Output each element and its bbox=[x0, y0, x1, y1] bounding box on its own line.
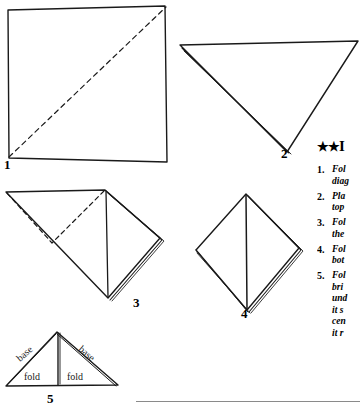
figure-5-label-fold-right: fold bbox=[67, 371, 83, 382]
instructions-heading: ★★I bbox=[317, 138, 360, 155]
instruction-step-2: 2. Pla top bbox=[317, 191, 360, 214]
instructions-panel: ★★I 1. Fol diag 2. Pla top 3. Fol bbox=[317, 138, 360, 396]
instruction-step-2-text: Pla top bbox=[332, 191, 360, 214]
figure-3-number: 3 bbox=[133, 296, 140, 309]
instruction-step-4-text: Fol bot bbox=[332, 244, 360, 267]
instruction-step-3: 3. Fol the bbox=[317, 217, 360, 240]
instruction-step-1-number: 1. bbox=[317, 164, 325, 176]
difficulty-stars-icon: ★★ bbox=[317, 139, 339, 154]
figure-4-center-crease bbox=[246, 195, 247, 309]
figure-3-dashed-fold-line bbox=[6, 191, 104, 243]
bottom-divider bbox=[136, 401, 360, 402]
figure-3-center-crease bbox=[106, 191, 108, 297]
figure-4-diamond bbox=[196, 194, 303, 313]
figure-3-diamond bbox=[6, 190, 164, 301]
figure-5-label-fold-left: fold bbox=[24, 371, 40, 382]
instruction-step-1: 1. Fol diag bbox=[317, 164, 360, 187]
instruction-step-2-number: 2. bbox=[317, 191, 325, 203]
figure-5-annotations: base base fold fold bbox=[14, 343, 98, 382]
instructions-heading-text: I bbox=[339, 138, 345, 154]
figure-1-square bbox=[8, 6, 167, 162]
instruction-step-3-number: 3. bbox=[317, 217, 325, 229]
figure-5-number: 5 bbox=[47, 392, 54, 405]
figure-1-number: 1 bbox=[4, 158, 11, 171]
instruction-step-1-text: Fol diag bbox=[332, 164, 360, 187]
figure-2-number: 2 bbox=[281, 147, 288, 160]
instruction-step-5-text: Fol bri und it s cen it r bbox=[332, 270, 360, 339]
figure-1-dashed-fold-line bbox=[9, 7, 166, 157]
instruction-step-4-number: 4. bbox=[317, 244, 325, 256]
instruction-step-5: 5. Fol bri und it s cen it r bbox=[317, 270, 360, 339]
figure-5-label-base-right: base bbox=[77, 343, 98, 363]
illustration-page: base base fold fold 1 2 3 4 5 ★★I 1. Fol… bbox=[0, 0, 360, 413]
figure-4-number: 4 bbox=[241, 307, 248, 320]
instruction-step-3-text: Fol the bbox=[332, 217, 360, 240]
figures-canvas: base base fold fold bbox=[0, 0, 360, 413]
figure-5-label-base-left: base bbox=[14, 343, 35, 363]
instruction-step-4: 4. Fol bot bbox=[317, 244, 360, 267]
instruction-step-5-number: 5. bbox=[317, 270, 325, 282]
instructions-list: 1. Fol diag 2. Pla top 3. Fol the bbox=[317, 164, 360, 339]
